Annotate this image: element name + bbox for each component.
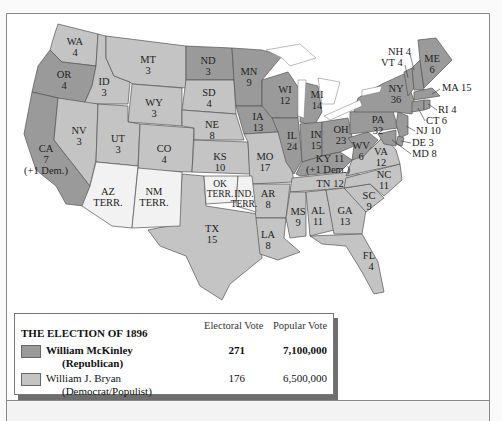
svg-text:IND.TERR.: IND.TERR. [231, 189, 258, 209]
header-popular-vote: Popular Vote [273, 320, 327, 331]
bryan-electoral-vote: 176 [215, 372, 245, 384]
republican-swatch [21, 345, 41, 358]
svg-text:WI12: WI12 [278, 84, 292, 106]
svg-text:MA 15: MA 15 [442, 82, 471, 93]
svg-text:TN12: TN12 [316, 178, 344, 189]
svg-text:RI 4: RI 4 [438, 104, 457, 115]
state-NJ [396, 112, 408, 138]
svg-text:PA32: PA32 [372, 114, 385, 136]
legend-title: THE ELECTION OF 1896 [21, 327, 147, 339]
candidate-mckinley-name: William McKinley (Republican) [46, 344, 133, 370]
candidate-bryan-name: William J. Bryan (Democrat/Populist) [46, 372, 152, 398]
svg-text:IL24: IL24 [287, 130, 298, 152]
bryan-popular-vote: 6,500,000 [265, 372, 327, 384]
svg-text:IN15: IN15 [310, 129, 321, 151]
state-CT [412, 100, 424, 112]
svg-text:MI14: MI14 [311, 89, 324, 111]
svg-text:IA13: IA13 [252, 111, 263, 133]
svg-text:DE 3: DE 3 [412, 137, 434, 148]
election-legend: THE ELECTION OF 1896 Electoral Vote Popu… [14, 313, 334, 395]
mckinley-electoral-vote: 271 [215, 344, 245, 356]
svg-text:NJ 10: NJ 10 [416, 125, 441, 136]
svg-text:NH 4: NH 4 [388, 46, 412, 57]
svg-text:MD 8: MD 8 [412, 148, 437, 159]
svg-text:KS10: KS10 [213, 151, 227, 173]
state-DE [396, 136, 404, 146]
democrat-swatch [21, 373, 41, 386]
mckinley-popular-vote: 7,100,000 [265, 344, 327, 356]
svg-text:VT 4: VT 4 [381, 57, 403, 68]
header-electoral-vote: Electoral Vote [204, 320, 263, 331]
svg-text:AL11: AL11 [311, 205, 325, 227]
svg-text:VA12: VA12 [374, 146, 388, 168]
